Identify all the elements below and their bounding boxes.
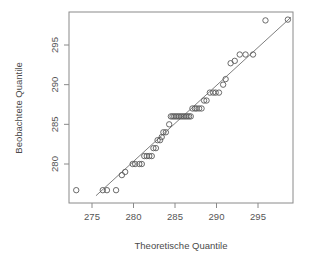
qq-plot-figure: 275280285290295 280285290295 Theoretisch… xyxy=(0,0,312,263)
y-tick-label: 290 xyxy=(49,77,60,93)
y-tick-label: 285 xyxy=(49,116,60,132)
y-axis-title: Beobachtete Quantile xyxy=(13,62,24,153)
x-axis-title: Theoretische Quantile xyxy=(135,240,228,251)
x-tick-label: 285 xyxy=(167,211,183,222)
y-tick-label: 295 xyxy=(49,37,60,53)
x-tick-label: 295 xyxy=(250,211,266,222)
x-tick-label: 290 xyxy=(209,211,225,222)
y-tick-label: 280 xyxy=(49,156,60,172)
x-tick-label: 275 xyxy=(84,211,100,222)
x-tick-label: 280 xyxy=(126,211,142,222)
qq-plot-canvas: 275280285290295 280285290295 Theoretisch… xyxy=(0,0,312,263)
figure-background xyxy=(0,0,312,263)
